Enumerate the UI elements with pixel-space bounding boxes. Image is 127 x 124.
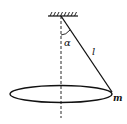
pendulum-string [61,16,112,92]
length-label: l [92,46,95,57]
conical-pendulum-diagram: α l m [0,0,127,124]
ceiling-support [48,12,78,16]
angle-arc [61,30,70,35]
angle-label: α [64,37,71,48]
mass-label: m [113,93,123,103]
